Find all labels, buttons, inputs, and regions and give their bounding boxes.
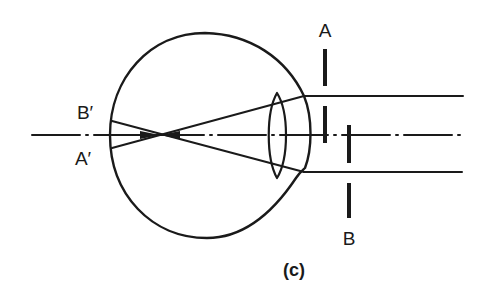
label-aperture-a: A — [319, 21, 332, 40]
label-aperture-b: B — [343, 229, 356, 248]
figure-caption: (c) — [283, 261, 305, 279]
label-image-b-prime: B′ — [77, 103, 93, 122]
ray-upper-refracted — [112, 96, 304, 148]
eye-optics-diagram — [0, 0, 490, 299]
ray-lower-refracted — [112, 121, 304, 172]
label-image-a-prime: A′ — [75, 149, 91, 168]
